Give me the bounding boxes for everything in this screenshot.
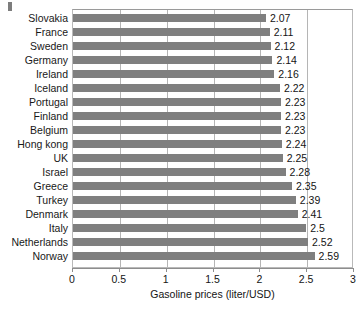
category-label-uk: UK <box>0 151 68 165</box>
bar-value-label: 2.12 <box>275 39 295 53</box>
category-label-denmark: Denmark <box>0 207 68 221</box>
category-label-sweden: Sweden <box>0 39 68 53</box>
bar-value-label: 2.14 <box>276 53 296 67</box>
bar <box>73 238 308 246</box>
bar <box>73 168 286 176</box>
bar-value-label: 2.25 <box>287 151 307 165</box>
x-tick-label-0: 0 <box>52 273 92 285</box>
bar-value-label: 2.41 <box>302 207 322 221</box>
x-tick-1.5 <box>213 268 214 272</box>
bar-row: Sweden2.12 <box>0 39 364 53</box>
x-tick-1 <box>166 268 167 272</box>
x-tick-0.5 <box>119 268 120 272</box>
x-tick-label-1.5: 1.5 <box>193 273 233 285</box>
bar-row: Slovakia2.07 <box>0 11 364 25</box>
category-label-greece: Greece <box>0 179 68 193</box>
bar <box>73 14 266 22</box>
bar-row: Germany2.14 <box>0 53 364 67</box>
bar-value-label: 2.35 <box>296 179 316 193</box>
bar-row: Belgium2.23 <box>0 123 364 137</box>
bar <box>73 210 298 218</box>
bar-value-label: 2.24 <box>286 137 306 151</box>
category-label-netherlands: Netherlands <box>0 235 68 249</box>
x-tick-3 <box>353 268 354 272</box>
bar-row: Norway2.59 <box>0 249 364 263</box>
bar-value-label: 2.23 <box>285 95 305 109</box>
bar-row: Greece2.35 <box>0 179 364 193</box>
bar-row: Ireland2.16 <box>0 67 364 81</box>
category-label-iceland: Iceland <box>0 81 68 95</box>
bar-value-label: 2.39 <box>300 193 320 207</box>
category-label-finland: Finland <box>0 109 68 123</box>
x-tick-2 <box>259 268 260 272</box>
bar <box>73 252 315 260</box>
bar-value-label: 2.52 <box>312 235 332 249</box>
x-axis-title: Gasoline prices (liter/USD) <box>72 288 353 300</box>
bar-row: Iceland2.22 <box>0 81 364 95</box>
bar <box>73 42 271 50</box>
bar-value-label: 2.28 <box>290 165 310 179</box>
category-label-norway: Norway <box>0 249 68 263</box>
bar-value-label: 2.5 <box>310 221 325 235</box>
bar <box>73 56 272 64</box>
bar-row: UK2.25 <box>0 151 364 165</box>
bar <box>73 182 292 190</box>
bar <box>73 126 281 134</box>
category-label-italy: Italy <box>0 221 68 235</box>
category-label-israel: Israel <box>0 165 68 179</box>
category-label-portugal: Portugal <box>0 95 68 109</box>
bar-value-label: 2.07 <box>270 11 290 25</box>
category-label-hong-kong: Hong kong <box>0 137 68 151</box>
bar-row: Turkey2.39 <box>0 193 364 207</box>
bar <box>73 98 281 106</box>
bar-value-label: 2.59 <box>319 249 339 263</box>
bar-row: Hong kong2.24 <box>0 137 364 151</box>
bar <box>73 28 270 36</box>
category-label-ireland: Ireland <box>0 67 68 81</box>
x-tick-label-1: 1 <box>146 273 186 285</box>
bar <box>73 140 282 148</box>
bar <box>73 84 280 92</box>
bar-row: Finland2.23 <box>0 109 364 123</box>
x-tick-label-2.5: 2.5 <box>286 273 326 285</box>
bar-value-label: 2.23 <box>285 109 305 123</box>
category-label-slovakia: Slovakia <box>0 11 68 25</box>
bar <box>73 224 306 232</box>
bar-value-label: 2.16 <box>278 67 298 81</box>
bar <box>73 70 274 78</box>
x-tick-2.5 <box>306 268 307 272</box>
bar-row: Italy2.5 <box>0 221 364 235</box>
category-label-belgium: Belgium <box>0 123 68 137</box>
x-tick-label-0.5: 0.5 <box>99 273 139 285</box>
category-label-france: France <box>0 25 68 39</box>
bar-row: Netherlands2.52 <box>0 235 364 249</box>
bar-value-label: 2.22 <box>284 81 304 95</box>
gasoline-prices-bar-chart: Slovakia2.07France2.11Sweden2.12Germany2… <box>0 0 364 315</box>
x-tick-label-3: 3 <box>333 273 364 285</box>
category-label-turkey: Turkey <box>0 193 68 207</box>
bar <box>73 196 296 204</box>
bar <box>73 154 283 162</box>
bar-row: Denmark2.41 <box>0 207 364 221</box>
bar-value-label: 2.23 <box>285 123 305 137</box>
bar-row: Portugal2.23 <box>0 95 364 109</box>
category-label-germany: Germany <box>0 53 68 67</box>
bar-value-label: 2.11 <box>274 25 294 39</box>
x-tick-0 <box>72 268 73 272</box>
bar-row: France2.11 <box>0 25 364 39</box>
bar-row: Israel2.28 <box>0 165 364 179</box>
bar <box>73 112 281 120</box>
x-tick-label-2: 2 <box>239 273 279 285</box>
